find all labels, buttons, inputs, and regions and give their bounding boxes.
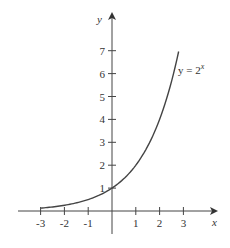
exponential-curve (41, 52, 179, 209)
x-tick-label: -3 (36, 217, 46, 229)
x-axis-label: x (211, 216, 217, 228)
curve-label-base: y = 2 (178, 64, 201, 76)
x-ticks: -3-2-1123 (36, 207, 187, 229)
y-axis-label: y (96, 13, 102, 25)
y-tick-label: 3 (100, 136, 106, 148)
x-tick-label: 1 (133, 217, 139, 229)
x-tick-label: -1 (84, 217, 93, 229)
curve-label-exponent: x (200, 62, 205, 71)
curve-label: y = 2x (178, 62, 205, 76)
y-ticks: 1234567 (100, 45, 117, 194)
x-tick-label: 3 (181, 217, 187, 229)
y-tick-label: 4 (100, 113, 106, 125)
y-tick-label: 2 (100, 159, 106, 171)
y-tick-label: 6 (100, 68, 106, 80)
x-tick-label: -2 (60, 217, 69, 229)
exponential-chart: -3-2-1123 1234567 x y y = 2x (0, 0, 230, 248)
y-tick-label: 5 (100, 91, 106, 103)
y-tick-label: 7 (100, 45, 106, 57)
x-tick-label: 2 (157, 217, 163, 229)
